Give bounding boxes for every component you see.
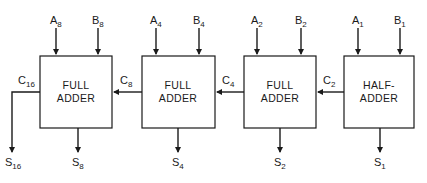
input-b1-label: B1 <box>394 14 406 29</box>
carry-c8-label: C8 <box>120 74 133 89</box>
input-a2-label: A2 <box>251 14 263 29</box>
full-adder-block-2: FULL ADDER A2 B2 S2 C4 <box>217 14 316 171</box>
svg-text:FULL: FULL <box>267 79 294 91</box>
svg-text:ADDER: ADDER <box>360 92 398 104</box>
carry-c16-label: C16 <box>18 74 35 89</box>
svg-text:ADDER: ADDER <box>159 92 197 104</box>
sum-s2-label: S2 <box>274 156 286 171</box>
sum-s8-label: S8 <box>72 156 84 171</box>
input-b4-label: B4 <box>193 14 205 29</box>
input-b8-label: B8 <box>92 14 104 29</box>
svg-text:FULL: FULL <box>165 79 192 91</box>
input-b2-label: B2 <box>295 14 307 29</box>
sum-s4-label: S4 <box>172 156 184 171</box>
input-a4-label: A4 <box>150 14 162 29</box>
sum-s1-label: S1 <box>374 156 386 171</box>
sum-s16-label: S16 <box>5 156 22 171</box>
half-adder-block-1: HALF- ADDER A1 B1 S1 C2 <box>318 14 414 171</box>
svg-text:HALF-: HALF- <box>363 79 395 91</box>
input-a8-label: A8 <box>50 14 62 29</box>
full-adder-block-8: FULL ADDER A8 B8 S8 C16 S16 <box>5 14 112 171</box>
carry-c4-label: C4 <box>222 74 235 89</box>
adder-chain-diagram: FULL ADDER A8 B8 S8 C16 S16 FULL ADDER A… <box>0 0 427 183</box>
full-adder-block-4: FULL ADDER A4 B4 S4 C8 <box>114 14 215 171</box>
carry-c2-label: C2 <box>323 74 336 89</box>
svg-text:ADDER: ADDER <box>261 92 299 104</box>
svg-text:FULL: FULL <box>63 79 90 91</box>
input-a1-label: A1 <box>352 14 364 29</box>
svg-text:ADDER: ADDER <box>57 92 95 104</box>
